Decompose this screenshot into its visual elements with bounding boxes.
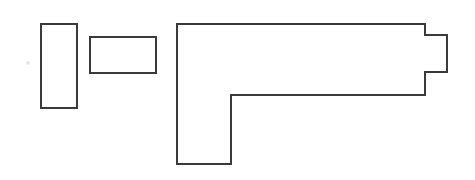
small-rectangle-shape [90, 37, 156, 73]
tall-rectangle-shape [41, 24, 77, 108]
notched-l-shape [177, 24, 447, 164]
figure-svg [0, 0, 475, 180]
drawing-canvas [0, 0, 475, 180]
faint-speck [26, 61, 29, 64]
